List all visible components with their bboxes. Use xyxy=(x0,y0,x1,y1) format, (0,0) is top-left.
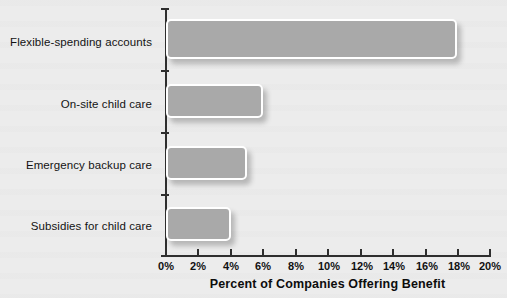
x-axis-tick-label-2: 2% xyxy=(190,260,206,272)
x-axis-tick-label-10: 10% xyxy=(318,260,340,272)
bars-layer xyxy=(0,0,507,298)
x-axis-tick-label-6: 6% xyxy=(255,260,271,272)
x-axis-tick-label-0: 0% xyxy=(158,260,174,272)
x-axis-tick-label-12: 12% xyxy=(351,260,373,272)
x-axis-tick-label-16: 16% xyxy=(416,260,438,272)
x-axis-title: Percent of Companies Offering Benefit xyxy=(165,277,490,291)
x-axis-tick xyxy=(197,249,199,257)
x-axis-tick xyxy=(295,249,297,257)
bar-flexible-spending-accounts[interactable] xyxy=(166,19,457,59)
x-axis-tick xyxy=(489,249,491,257)
bar-on-site-child-care[interactable] xyxy=(166,84,263,118)
x-axis-tick-label-4: 4% xyxy=(223,260,239,272)
x-axis-tick-label-8: 8% xyxy=(288,260,304,272)
x-axis-tick xyxy=(262,249,264,257)
horizontal-bar-chart: Flexible-spending accounts On-site child… xyxy=(0,0,507,298)
x-axis-tick xyxy=(392,249,394,257)
x-axis-tick xyxy=(360,249,362,257)
x-axis-tick-label-14: 14% xyxy=(383,260,405,272)
x-axis-tick xyxy=(327,249,329,257)
x-axis-tick-label-20: 20% xyxy=(479,260,501,272)
bar-subsidies-for-child-care[interactable] xyxy=(166,207,231,241)
bar-emergency-backup-care[interactable] xyxy=(166,146,247,180)
x-axis-tick-label-18: 18% xyxy=(448,260,470,272)
x-axis-tick xyxy=(165,249,167,257)
x-axis-tick xyxy=(230,249,232,257)
x-axis-tick xyxy=(457,249,459,257)
x-axis-tick xyxy=(425,249,427,257)
